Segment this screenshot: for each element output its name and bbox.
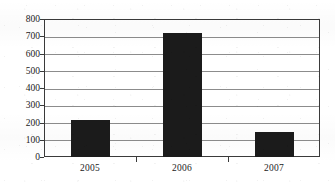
y-tick-label-400: 400 — [8, 83, 40, 93]
y-tick-label-800: 800 — [8, 14, 40, 24]
bar-2006 — [163, 33, 202, 157]
x-tick-mark-2 — [228, 157, 229, 162]
y-tick-label-0: 0 — [8, 152, 40, 162]
bars-layer — [44, 19, 320, 157]
y-tick-label-300: 300 — [8, 100, 40, 110]
y-tick-label-700: 700 — [8, 31, 40, 41]
bar-chart: 0100200300400500600700800 200520062007 — [0, 0, 335, 186]
x-tick-label-2007: 2007 — [244, 163, 304, 174]
y-tick-mark-0 — [40, 157, 44, 158]
x-tick-label-2005: 2005 — [60, 163, 120, 174]
bar-2007 — [255, 132, 294, 157]
y-tick-label-100: 100 — [8, 135, 40, 145]
bar-2005 — [71, 120, 110, 157]
y-tick-label-200: 200 — [8, 118, 40, 128]
x-tick-mark-1 — [136, 157, 137, 162]
y-tick-label-500: 500 — [8, 66, 40, 76]
x-tick-label-2006: 2006 — [152, 163, 212, 174]
y-tick-label-600: 600 — [8, 49, 40, 59]
